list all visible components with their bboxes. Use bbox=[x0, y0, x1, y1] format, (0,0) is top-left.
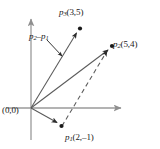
diagram-svg bbox=[0, 0, 160, 149]
point-label-p1: p1(2,–1) bbox=[65, 133, 94, 143]
vector-to-p3 bbox=[31, 33, 77, 108]
vector-diagram-canvas: p3(3,5) p2(5,4) p1(2,–1) p2–p1 (0,0) bbox=[0, 0, 160, 149]
point-label-p2: p2(5,4) bbox=[113, 40, 137, 50]
point-markers-group bbox=[59, 26, 114, 128]
vector-to-p1 bbox=[31, 108, 57, 123]
point-label-p1-coords: (2,–1) bbox=[73, 132, 94, 142]
point-marker-p1 bbox=[59, 124, 63, 128]
vector-p1-to-p2-dashed bbox=[62, 51, 107, 126]
point-label-p2-coords: (5,4) bbox=[121, 39, 138, 49]
origin-label: (0,0) bbox=[2, 106, 19, 115]
vectors-group bbox=[31, 33, 108, 126]
point-label-p3: p3(3,5) bbox=[59, 8, 83, 18]
annotation-label-p2-minus-p1: p2–p1 bbox=[29, 32, 49, 42]
annotation-leader-line bbox=[47, 40, 62, 56]
annotation-sub-1: 1 bbox=[45, 34, 48, 41]
axes-group bbox=[6, 19, 121, 140]
vector-to-p2 bbox=[31, 50, 108, 108]
point-label-p3-coords: (3,5) bbox=[67, 7, 84, 17]
point-marker-p3 bbox=[78, 26, 82, 30]
origin-label-text: (0,0) bbox=[2, 105, 19, 115]
